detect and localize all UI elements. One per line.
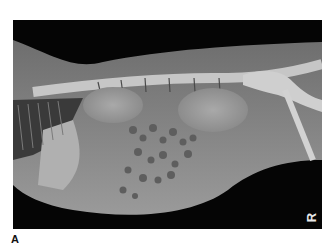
figure-label: A [11, 233, 19, 245]
radiograph-image: R [13, 20, 322, 229]
organ-right [178, 88, 248, 132]
side-marker-letter: R [306, 213, 317, 222]
side-marker: R [306, 213, 317, 222]
radiograph-drawing [13, 20, 322, 229]
organ-left [83, 87, 143, 123]
